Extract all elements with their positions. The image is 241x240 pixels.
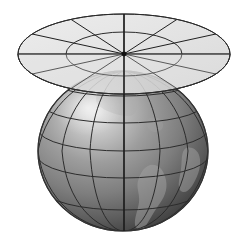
figure-container: Globe with tangent equatorial plane and … [0, 0, 241, 240]
north-pole-vertex [122, 52, 127, 57]
globe-tangent-plane-figure [0, 0, 241, 240]
globe [38, 71, 208, 233]
